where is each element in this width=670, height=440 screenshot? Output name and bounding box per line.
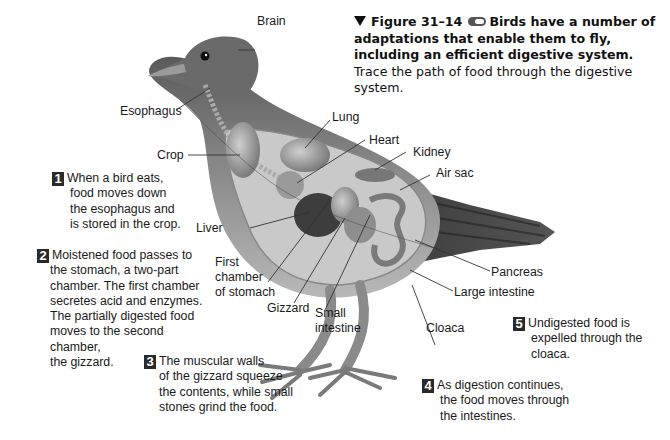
step-2-line: moves to the second chamber, [37, 324, 217, 355]
label-lung: Lung [332, 110, 359, 124]
step-number-badge: 3 [144, 355, 156, 369]
step-1-line: food moves down [52, 186, 202, 201]
step-1-line: the esophagus and [52, 202, 202, 217]
label-heart: Heart [369, 133, 399, 147]
label-first-chamber-line1: First [215, 255, 275, 270]
caption-regular-text: Trace the path of food through the diges… [354, 64, 632, 96]
label-brain: Brain [257, 14, 286, 28]
step-3-line: of the gizzard squeeze [144, 369, 314, 384]
label-pancreas: Pancreas [491, 265, 543, 279]
step-4-line: the intestines. [422, 409, 592, 424]
label-esophagus: Esophagus [120, 104, 182, 118]
figure-caption: Figure 31–14Birds have a number of adapt… [354, 14, 664, 97]
step-number-badge: 2 [37, 249, 49, 263]
eye [201, 52, 210, 61]
media-link-icon[interactable] [468, 17, 486, 26]
step-3-line: stones grind the food. [144, 400, 314, 415]
label-first-chamber: First chamber of stomach [215, 255, 275, 300]
label-cloaca: Cloaca [426, 321, 464, 335]
figure-number: Figure 31–14 [371, 14, 462, 29]
triangle-marker-icon [354, 16, 366, 26]
step-3: 3The muscular walls of the gizzard squee… [144, 354, 314, 415]
kidney-organ [355, 168, 395, 182]
step-1: 1When a bird eats, food moves down the e… [52, 171, 202, 232]
step-5-line: expelled through the [513, 331, 668, 346]
step-number-badge: 4 [422, 379, 434, 393]
step-2-line: secretes acid and enzymes. [37, 294, 217, 309]
label-gizzard: Gizzard [267, 301, 309, 315]
step-4: 4As digestion continues, the food moves … [422, 378, 592, 424]
label-small-intestine-line2: intestine [315, 321, 361, 336]
step-number-badge: 5 [513, 317, 525, 331]
step-2-line: the stomach, a two-part [37, 263, 217, 278]
step-5-line: cloaca. [513, 347, 668, 362]
label-first-chamber-line3: of stomach [215, 285, 275, 300]
label-small-intestine-line1: Small [315, 306, 361, 321]
step-1-line: is stored in the crop. [52, 217, 202, 232]
step-1-line: When a bird eats, [67, 171, 163, 185]
label-large-intestine: Large intestine [454, 285, 535, 299]
step-number-badge: 1 [52, 172, 64, 186]
step-2-line: The partially digested food [37, 309, 217, 324]
step-4-line: the food moves through [422, 393, 592, 408]
step-4-line: As digestion continues, [437, 378, 563, 392]
step-5-line: Undigested food is [528, 316, 630, 330]
label-first-chamber-line2: chamber [215, 270, 275, 285]
step-2: 2Moistened food passes to the stomach, a… [37, 248, 217, 370]
label-small-intestine: Small intestine [315, 306, 361, 336]
step-5: 5Undigested food is expelled through the… [513, 316, 668, 362]
step-2-line: Moistened food passes to [52, 248, 192, 262]
label-kidney: Kidney [413, 145, 451, 159]
step-3-line: The muscular walls [159, 354, 264, 368]
label-air-sac: Air sac [436, 166, 474, 180]
step-3-line: the contents, while small [144, 385, 314, 400]
step-2-line: chamber. The first chamber [37, 279, 217, 294]
label-crop: Crop [157, 148, 184, 162]
